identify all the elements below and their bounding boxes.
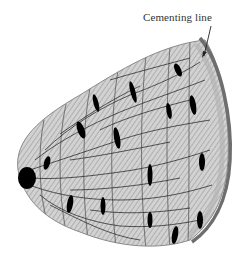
osteon-diagram: [0, 0, 243, 265]
cementing-line-label: Cementing line: [143, 11, 212, 23]
central-canal: [18, 167, 36, 189]
